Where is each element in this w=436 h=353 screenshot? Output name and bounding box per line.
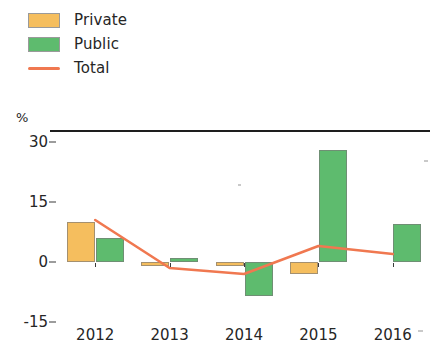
x-axis-tick-mark	[393, 263, 394, 267]
legend-label-private: Private	[74, 13, 127, 28]
legend-item-public[interactable]: Public	[28, 32, 208, 56]
y-axis-tick-label: 15	[29, 193, 48, 211]
y-axis-tick-mark	[49, 262, 56, 263]
total-line-layer	[58, 130, 430, 322]
x-axis-tick-label-2012: 2012	[76, 326, 114, 344]
x-axis-tick-label-2013: 2013	[151, 326, 189, 344]
x-axis-tick-mark	[95, 263, 96, 267]
y-axis-unit-label: %	[16, 110, 28, 125]
scan-speck	[418, 330, 423, 332]
y-axis-tick-label: 0	[38, 253, 48, 271]
y-axis-tick-label: -15	[24, 313, 49, 331]
y-axis-tick-mark	[49, 142, 56, 143]
x-axis-tick-label-2014: 2014	[225, 326, 263, 344]
legend-item-total[interactable]: Total	[28, 56, 208, 80]
x-axis-tick-mark	[244, 263, 245, 267]
legend-label-total: Total	[74, 61, 110, 76]
x-axis-tick-label-2015: 2015	[299, 326, 337, 344]
x-axis-tick-mark	[170, 263, 171, 267]
scan-speck	[424, 160, 428, 162]
x-axis-tick-label-2016: 2016	[374, 326, 412, 344]
y-axis-tick-mark	[49, 322, 56, 323]
legend-swatch-private-icon	[28, 13, 60, 28]
legend-item-private[interactable]: Private	[28, 8, 208, 32]
chart-container: Private Public Total % 30150-15 20122013…	[0, 0, 436, 353]
plot-area: 30150-15	[58, 130, 430, 322]
chart-legend: Private Public Total	[28, 8, 208, 80]
y-axis-tick-label: 30	[29, 133, 48, 151]
legend-label-public: Public	[74, 37, 119, 52]
y-axis-tick-mark	[49, 202, 56, 203]
legend-swatch-public-icon	[28, 37, 60, 52]
x-axis-tick-mark	[318, 263, 319, 267]
legend-line-total-icon	[28, 61, 60, 76]
scan-speck	[238, 184, 241, 186]
x-axis-labels: 20122013201420152016	[58, 326, 430, 350]
